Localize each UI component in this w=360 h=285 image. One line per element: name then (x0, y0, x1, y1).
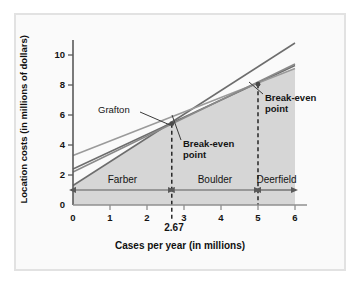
break-even-dot-2 (256, 82, 261, 87)
y-tick-label: 10 (47, 49, 65, 60)
region-label-farber: Farber (82, 174, 162, 185)
x-tick-label: 0 (63, 212, 83, 223)
y-tick-label: 8 (47, 79, 65, 90)
y-tick-label: 0 (47, 199, 65, 210)
grafton-series-label: Grafton (98, 104, 130, 115)
x-tick-label: 5 (248, 212, 268, 223)
x-axis-title: Cases per year (in millions) (0, 240, 360, 251)
figure-container: Location costs (in millions of dollars) … (0, 0, 360, 285)
y-tick-label: 6 (47, 109, 65, 120)
break-even-label-2-line1: Break-even (265, 92, 316, 103)
region-label-deerfield: Deerfield (237, 174, 317, 185)
break-even-label-2: Break-even point (265, 92, 316, 114)
y-axis-title: Location costs (in millions of dollars) (18, 44, 29, 204)
y-tick-label: 4 (47, 139, 65, 150)
break-even-label-1-line2: point (183, 149, 234, 160)
break-even-label-1: Break-even point (183, 138, 234, 160)
x-tick-label: 1 (100, 212, 120, 223)
x-tick-label: 6 (285, 212, 305, 223)
break-even-label-2-line2: point (265, 103, 316, 114)
y-tick-label: 2 (47, 169, 65, 180)
break-even-label-1-line1: Break-even (183, 138, 234, 149)
break-even-x-value-label: 2.67 (152, 222, 196, 233)
break-even-dot-1 (169, 121, 174, 126)
x-tick-label: 4 (211, 212, 231, 223)
